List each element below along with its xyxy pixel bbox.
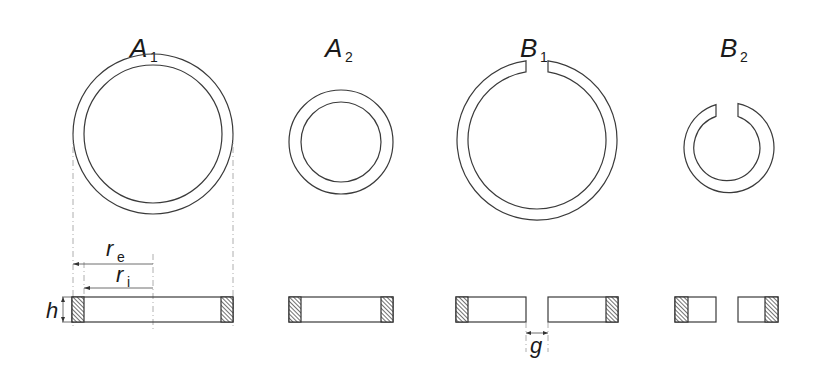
section-outline (289, 297, 393, 322)
ring-a2-top-view (289, 90, 393, 194)
ring-a1-cross-section (72, 297, 233, 322)
dimension-symbol: r (116, 262, 125, 287)
gap-dimension: g (526, 322, 548, 358)
hatched-section-left (456, 297, 468, 322)
ring-b2-cross-section (675, 297, 778, 322)
ring-title-letter: B (720, 33, 737, 63)
ring-title-subscript: 1 (540, 49, 548, 65)
inner-circle (84, 65, 222, 203)
section-outline (72, 297, 233, 322)
arrowhead-icon (543, 331, 548, 335)
hatched-section-left (72, 297, 84, 322)
dimension-subscript: i (127, 274, 130, 290)
ring-title-a1: A 1 (128, 33, 158, 65)
outer-circle (289, 90, 393, 194)
hatched-section-left (289, 297, 301, 322)
ring-title-subscript: 1 (150, 49, 158, 65)
ring-b1-top-view (457, 61, 617, 220)
hatched-section-right (381, 297, 393, 322)
ring-b2-top-view (684, 104, 774, 193)
hatched-section-right (765, 297, 778, 322)
inner-radius-dimension: r i (84, 262, 153, 290)
ring-b1-cross-section (456, 297, 618, 322)
ring-a2-cross-section (289, 297, 393, 322)
split-ring-outline (684, 104, 774, 193)
ring-title-letter: A (323, 33, 342, 63)
ring-title-letter: A (128, 33, 147, 63)
ring-diagram: A 1 A 2 B 1 B 2 r e r i h (0, 0, 825, 379)
hatched-section-left (675, 297, 688, 322)
arrowhead-icon (73, 262, 79, 266)
height-dimension: h (46, 297, 74, 323)
inner-circle (301, 102, 381, 182)
ring-a1-top-view (73, 54, 233, 214)
arrowhead-icon (61, 297, 65, 302)
dimension-symbol: g (530, 333, 543, 358)
ring-title-b2: B 2 (720, 33, 748, 65)
split-ring-outline (457, 61, 617, 220)
arrowhead-icon (84, 286, 90, 290)
ring-title-subscript: 2 (345, 49, 353, 65)
ring-title-subscript: 2 (740, 49, 748, 65)
ring-title-letter: B (520, 33, 537, 63)
hatched-section-right (221, 297, 233, 322)
dimension-symbol: h (46, 298, 58, 323)
outer-circle (73, 54, 233, 214)
ring-title-a2: A 2 (323, 33, 353, 65)
arrowhead-icon (61, 317, 65, 322)
dimension-symbol: r (106, 236, 115, 261)
ring-title-b1: B 1 (520, 33, 548, 65)
outer-radius-dimension: r e (73, 236, 153, 266)
hatched-section-right (606, 297, 618, 322)
